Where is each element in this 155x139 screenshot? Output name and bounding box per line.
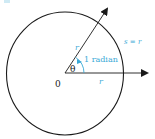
angle-label: 1 radian (84, 55, 118, 64)
angle-arc (76, 57, 85, 73)
cropped-label-fragment (4, 0, 10, 3)
arc-label: s = r (124, 38, 142, 46)
circle (7, 12, 124, 135)
origin-label: 0 (55, 79, 61, 89)
theta-label: θ (70, 64, 75, 74)
radius-lower-label: r (99, 77, 104, 86)
radian-diagram: 0 θ r r 1 radian s = r (0, 0, 155, 139)
